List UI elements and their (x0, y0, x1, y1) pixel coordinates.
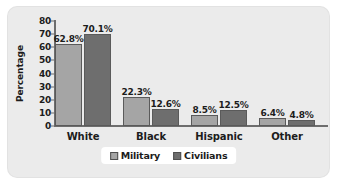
bar-military-white: 62.8% (55, 44, 82, 126)
bar-value-label: 8.5% (192, 105, 216, 115)
bar-value-label: 12.5% (218, 100, 248, 110)
bar-value-label: 62.8% (53, 34, 83, 44)
bar-value-label: 12.6% (150, 99, 180, 109)
bar-value-label: 4.8% (289, 110, 313, 120)
y-axis-label: Percentage (13, 21, 27, 126)
legend-swatch-icon (110, 152, 118, 160)
bar-value-label: 70.1% (82, 24, 112, 34)
bar-military-black: 22.3% (123, 97, 150, 126)
y-axis-tick-label: 40 (39, 69, 51, 79)
y-axis-tick-label: 30 (39, 82, 51, 92)
bar-military-other: 6.4% (259, 118, 286, 126)
bar-group: 8.5%12.5%Hispanic (191, 21, 259, 126)
x-axis-category-label: Other (271, 131, 303, 142)
bar-civilians-white: 70.1% (84, 34, 111, 126)
chart-legend: MilitaryCivilians (101, 147, 237, 164)
y-axis-tick-label: 20 (39, 95, 51, 105)
x-axis-category-label: Black (136, 131, 166, 142)
x-axis-category-label: Hispanic (195, 131, 242, 142)
legend-item-civilians[interactable]: Civilians (173, 150, 227, 161)
x-axis-category-label: White (67, 131, 100, 142)
y-axis-tick-label: 80 (39, 16, 51, 26)
bar-civilians-hispanic: 12.5% (220, 110, 247, 126)
legend-item-military[interactable]: Military (110, 150, 160, 161)
y-axis-tick-label: 10 (39, 108, 51, 118)
bar-civilians-black: 12.6% (152, 109, 179, 126)
bar-group: 6.4%4.8%Other (259, 21, 327, 126)
y-axis-tick-label: 60 (39, 42, 51, 52)
bar-value-label: 22.3% (121, 87, 151, 97)
bar-group: 22.3%12.6%Black (123, 21, 191, 126)
bar-group: 62.8%70.1%White (55, 21, 123, 126)
bar-military-hispanic: 8.5% (191, 115, 218, 126)
y-axis-tick-label: 70 (39, 29, 51, 39)
legend-label: Civilians (184, 150, 227, 161)
legend-label: Military (121, 150, 160, 161)
legend-swatch-icon (173, 152, 181, 160)
bar-value-label: 6.4% (260, 108, 284, 118)
plot-area: 80706050403020100 62.8%70.1%White22.3%12… (55, 21, 327, 126)
bar-civilians-other: 4.8% (288, 120, 315, 126)
y-axis-tick-label: 50 (39, 55, 51, 65)
bar-chart-figure: Percentage 80706050403020100 62.8%70.1%W… (8, 7, 329, 177)
